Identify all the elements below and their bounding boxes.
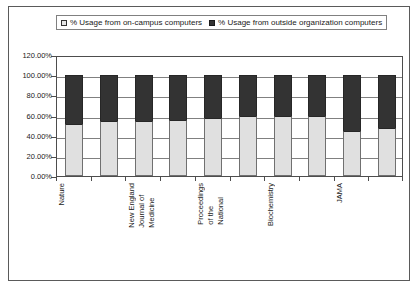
x-axis-label: Biochemistry xyxy=(266,183,275,226)
bar-stack[interactable] xyxy=(100,75,118,176)
bar-segment-outside-org[interactable] xyxy=(204,75,222,117)
legend-label-outside-org: % Usage from outside organization comput… xyxy=(218,18,382,27)
y-tick-mark xyxy=(51,56,56,57)
bar-stack[interactable] xyxy=(308,75,326,176)
x-axis-labels: NatureNew EnglandJournal ofMedicineProce… xyxy=(56,183,403,278)
y-tick-mark xyxy=(51,117,56,118)
y-axis: 0.00%20.00%40.00%60.00%80.00%100.00%120.… xyxy=(11,52,55,182)
bar-segment-on-campus[interactable] xyxy=(378,128,396,176)
x-tick-mark xyxy=(56,177,57,181)
x-tick-mark xyxy=(125,177,126,181)
y-tick-mark xyxy=(51,96,56,97)
x-axis-label-group: JAMA xyxy=(335,183,345,203)
bar-segment-outside-org[interactable] xyxy=(378,75,396,127)
bar-segment-on-campus[interactable] xyxy=(308,116,326,177)
bar-segment-on-campus[interactable] xyxy=(239,116,257,177)
x-tick-mark xyxy=(334,177,335,181)
x-axis-label-group: Proceedingsof theNational xyxy=(196,183,226,225)
bar-stack[interactable] xyxy=(65,75,83,176)
bar-segment-on-campus[interactable] xyxy=(100,121,118,176)
x-axis-label-group: Biochemistry xyxy=(266,183,276,226)
x-tick-mark xyxy=(299,177,300,181)
y-tick-mark xyxy=(51,137,56,138)
bar-segment-outside-org[interactable] xyxy=(308,75,326,115)
legend-entry-outside-org: % Usage from outside organization comput… xyxy=(209,18,382,27)
bar-series-group xyxy=(57,57,402,176)
legend-entry-on-campus: % Usage from on-campus computers xyxy=(61,18,202,27)
bar-segment-on-campus[interactable] xyxy=(65,124,83,176)
x-tick-mark xyxy=(230,177,231,181)
bar-segment-on-campus[interactable] xyxy=(343,131,361,176)
bar-segment-outside-org[interactable] xyxy=(100,75,118,120)
x-tick-mark xyxy=(160,177,161,181)
chart-plot-wrapper: % Usage from on-campus computers % Usage… xyxy=(9,7,411,282)
bar-stack[interactable] xyxy=(274,75,292,176)
bar-stack[interactable] xyxy=(169,75,187,176)
y-tick-label: 0.00% xyxy=(31,173,52,181)
y-tick-label: 120.00% xyxy=(22,52,52,60)
bar-segment-on-campus[interactable] xyxy=(274,116,292,177)
x-tick-mark xyxy=(402,177,403,181)
bar-stack[interactable] xyxy=(378,75,396,176)
bar-segment-on-campus[interactable] xyxy=(204,118,222,176)
x-axis-label: National xyxy=(216,183,225,225)
y-tick-label: 40.00% xyxy=(27,133,52,141)
legend-label-on-campus: % Usage from on-campus computers xyxy=(70,18,202,27)
bar-segment-outside-org[interactable] xyxy=(169,75,187,119)
x-tick-mark xyxy=(91,177,92,181)
y-tick-mark xyxy=(51,177,56,178)
y-tick-label: 80.00% xyxy=(27,92,52,100)
chart-legend: % Usage from on-campus computers % Usage… xyxy=(56,15,387,30)
bar-segment-outside-org[interactable] xyxy=(65,75,83,123)
bar-segment-outside-org[interactable] xyxy=(135,75,153,120)
y-tick-mark xyxy=(51,157,56,158)
bar-segment-outside-org[interactable] xyxy=(274,75,292,115)
y-tick-label: 100.00% xyxy=(22,72,52,80)
x-tick-mark xyxy=(195,177,196,181)
x-axis-label-group: Nature xyxy=(57,183,67,206)
y-tick-label: 60.00% xyxy=(27,113,52,121)
dark-square-icon xyxy=(209,20,215,26)
x-axis-label: Journal of xyxy=(137,183,146,228)
bar-segment-outside-org[interactable] xyxy=(239,75,257,115)
x-axis-label: JAMA xyxy=(335,183,344,203)
plot-area xyxy=(56,56,403,177)
y-tick-mark xyxy=(51,76,56,77)
x-axis-label: of the xyxy=(206,183,215,225)
chart-frame: % Usage from on-campus computers % Usage… xyxy=(8,6,410,281)
light-square-icon xyxy=(61,20,67,26)
bar-segment-on-campus[interactable] xyxy=(135,121,153,176)
bar-stack[interactable] xyxy=(204,75,222,176)
x-axis-label-group: New EnglandJournal ofMedicine xyxy=(127,183,157,228)
x-axis-label: Proceedings xyxy=(196,183,205,225)
y-tick-label: 20.00% xyxy=(27,153,52,161)
x-tick-mark xyxy=(264,177,265,181)
bar-segment-on-campus[interactable] xyxy=(169,120,187,176)
x-axis-label: Medicine xyxy=(147,183,156,228)
bar-stack[interactable] xyxy=(135,75,153,176)
bar-stack[interactable] xyxy=(239,75,257,176)
x-axis-label: Nature xyxy=(57,183,66,206)
bar-stack[interactable] xyxy=(343,75,361,176)
x-tick-mark xyxy=(368,177,369,181)
x-axis-ticks xyxy=(56,177,403,182)
x-axis-label: New England xyxy=(127,183,136,228)
bar-segment-outside-org[interactable] xyxy=(343,75,361,130)
